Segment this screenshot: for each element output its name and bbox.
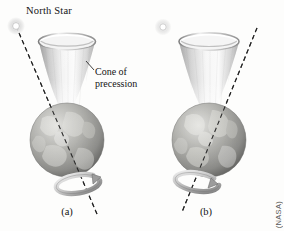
star-glow-icon bbox=[155, 19, 172, 36]
caption-a: (a) bbox=[0, 206, 138, 217]
star-glow-icon bbox=[7, 17, 25, 35]
image-credit: (NASA) bbox=[274, 201, 283, 228]
cone-label-line-1: Cone of bbox=[95, 66, 137, 78]
panel-b-graphics bbox=[142, 0, 284, 231]
caption-b: (b) bbox=[135, 206, 277, 217]
earth-globe-icon bbox=[172, 103, 246, 177]
earth-globe-icon bbox=[30, 103, 104, 177]
panel-b bbox=[142, 0, 284, 231]
precession-cone-icon bbox=[39, 33, 96, 114]
panel-a: North Star Cone of precession bbox=[0, 0, 142, 231]
panel-a-graphics bbox=[0, 0, 142, 231]
cone-of-precession-label: Cone of precession bbox=[95, 66, 137, 89]
precession-figure: North Star Cone of precession bbox=[0, 0, 284, 231]
north-star-label: North Star bbox=[26, 5, 72, 16]
cone-label-line-2: precession bbox=[95, 78, 137, 90]
